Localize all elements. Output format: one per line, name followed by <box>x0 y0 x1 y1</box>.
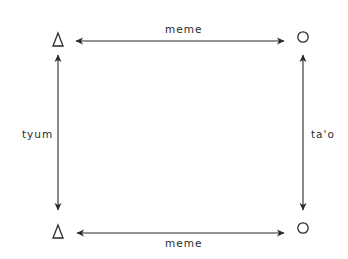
circle-node-top-right <box>298 32 308 42</box>
label-bottom-meme: meme <box>165 238 202 249</box>
label-top-meme: meme <box>165 24 202 35</box>
circle-node-bottom-right <box>298 223 308 233</box>
label-left-tyum: tyum <box>22 129 53 140</box>
label-right-tao: ta'o <box>311 129 335 140</box>
triangle-node-top-left <box>53 33 63 46</box>
triangle-node-bottom-left <box>53 225 63 238</box>
